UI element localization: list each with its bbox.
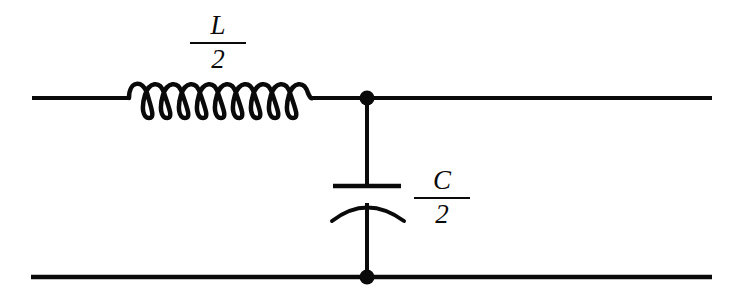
inductor-coil xyxy=(129,84,312,118)
capacitor-label-numerator: C xyxy=(430,167,454,194)
circuit-diagram-canvas: L 2 C 2 xyxy=(0,0,740,301)
inductor-label-numerator: L xyxy=(207,12,228,39)
capacitor-label-denominator: 2 xyxy=(432,201,452,228)
top-junction-dot xyxy=(360,91,375,106)
inductor-label-denominator: 2 xyxy=(208,46,228,73)
circuit-schematic xyxy=(0,0,740,301)
inductor-label: L 2 xyxy=(190,12,246,73)
bottom-junction-dot xyxy=(360,270,375,285)
capacitor-label: C 2 xyxy=(414,167,470,228)
